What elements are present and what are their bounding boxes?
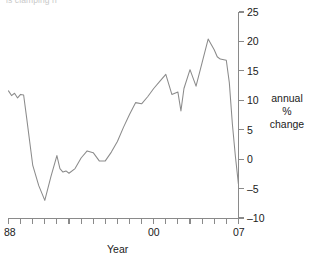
y-tick-label: 15 [247,65,259,77]
chart-figure: is clamping n 25 20 15 10 5 0 –5 –10 [0,0,312,258]
series-label-line-1: annual [264,92,310,105]
x-tick-label-end: 07 [233,226,245,238]
x-axis-title: Year [107,243,129,255]
data-series-line [9,39,239,200]
x-tick-label-start: 88 [4,226,16,238]
y-tick-label: 0 [247,153,253,165]
series-axis-label: annual % change [264,92,310,131]
x-axis-ticks [9,219,239,225]
y-tick-label: 25 [247,6,259,18]
series-label-line-3: change [264,118,310,131]
y-tick-label: –5 [247,183,259,195]
y-tick-label: 20 [247,35,259,47]
x-tick-label-mid: 00 [148,226,160,238]
series-label-line-2: % [264,105,310,118]
y-axis-tick-labels: 25 20 15 10 5 0 –5 –10 [247,6,265,224]
x-axis-tick-labels: 88 00 07 [4,226,245,238]
y-tick-label: –10 [247,212,265,224]
y-tick-label: 5 [247,124,253,136]
y-tick-label: 10 [247,94,259,106]
y-axis-ticks [239,12,244,218]
